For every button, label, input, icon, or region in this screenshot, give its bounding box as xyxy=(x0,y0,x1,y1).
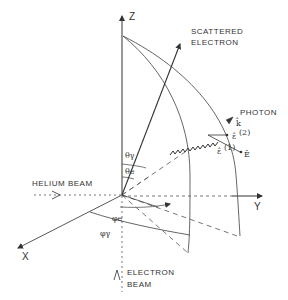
z-axis-label: Z xyxy=(129,11,135,22)
photon-label: PHOTON xyxy=(240,108,277,117)
y-axis-label: Y xyxy=(254,201,261,212)
electron-beam-arrow-icon xyxy=(114,270,120,280)
helium-beam: HELIUM BEAM xyxy=(32,179,122,199)
scattered-electron-label-line1: SCATTERED xyxy=(191,27,243,36)
photon-arrow-icon xyxy=(226,117,233,124)
photon-wavy-line xyxy=(170,142,218,155)
epsilon-1-superscript: (1) xyxy=(224,143,235,152)
scattered-electron-label-line2: ELECTRON xyxy=(191,38,239,47)
epsilon-1-vector-label: ε̂ xyxy=(217,147,221,156)
phi-gamma-label: φγ xyxy=(100,229,111,238)
k-vector-label: k̂ xyxy=(235,117,241,128)
y-axis: Y xyxy=(122,196,262,212)
electron-beam-label-line2: BEAM xyxy=(127,280,152,289)
scattering-geometry-diagram: Z Y X HELIUM BEAM ELECTRON BEAM xyxy=(0,0,288,300)
epsilon-2-superscript: (2) xyxy=(239,128,250,137)
e-vector-label: Ê xyxy=(244,150,250,159)
x-axis-label: X xyxy=(22,251,29,262)
electron-beam-label-line1: ELECTRON xyxy=(127,268,175,277)
phi-e-label: φe xyxy=(112,214,123,223)
epsilon-2-vector-label: ε̂ xyxy=(232,132,236,141)
phi-labels: φe φγ xyxy=(100,214,123,238)
helium-beam-label: HELIUM BEAM xyxy=(32,179,93,188)
theta-gamma-label: θγ xyxy=(125,151,135,160)
projection-lines xyxy=(122,150,240,253)
photon: PHOTON k̂ ε̂ (2) ε̂ (1) Ê xyxy=(170,108,277,159)
